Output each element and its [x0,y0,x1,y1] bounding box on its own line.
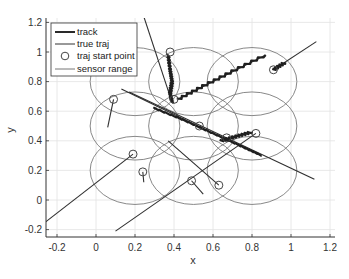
x-tick-label: 0.4 [167,242,181,253]
x-tick-label: 0 [93,242,99,253]
x-tick-label: 0.6 [206,242,220,253]
y-tick-label: 0.2 [28,165,42,176]
y-tick-label: 1 [36,47,42,58]
legend-label-true-traj: true traj [77,38,109,49]
y-tick-label: 0 [36,195,42,206]
legend-label-sensor-range: sensor range [77,63,132,74]
y-tick-label: 0.8 [28,76,42,87]
y-tick-label: 1.2 [28,17,42,28]
legend-label-track: track [77,26,98,37]
x-tick-label: -0.2 [48,242,66,253]
y-axis-label: y [4,127,16,133]
chart-figure: -0.200.20.40.60.811.2 -0.200.20.40.60.81… [0,0,349,279]
y-tick-label: 0.4 [28,135,42,146]
x-tick-label: 1.2 [323,242,337,253]
x-tick-label: 1 [288,242,294,253]
y-tick-label: -0.2 [25,224,43,235]
y-tick-label: 0.6 [28,106,42,117]
legend-label-start-point: traj start point [77,50,135,61]
x-axis-label: x [190,254,196,266]
legend: track true traj traj start point sensor … [51,23,137,76]
x-tick-label: 0.2 [128,242,142,253]
x-tick-label: 0.8 [245,242,259,253]
